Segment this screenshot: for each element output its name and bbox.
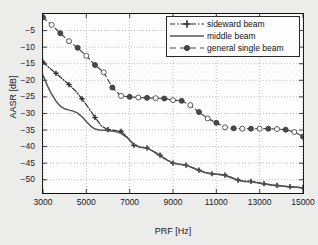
legend-box: sideward beam middle beam general single… xyxy=(166,16,300,57)
x-tick-label: 5000 xyxy=(66,198,106,207)
y-axis-label: AASR [dB] xyxy=(8,62,18,132)
series-marker xyxy=(275,127,280,132)
series-marker xyxy=(205,116,210,121)
y-tick-label: −5 xyxy=(9,26,35,35)
series-marker xyxy=(41,15,46,20)
x-axis-label: PRF [Hz] xyxy=(42,226,304,236)
series-marker xyxy=(153,96,158,101)
series-marker xyxy=(84,53,89,58)
x-tick-label: 13000 xyxy=(240,198,280,207)
series-marker xyxy=(231,126,236,131)
x-tick-label: 7000 xyxy=(110,198,150,207)
series-marker xyxy=(214,120,219,125)
x-tick-label: 9000 xyxy=(153,198,193,207)
legend-label-middle-beam: middle beam xyxy=(207,30,256,42)
legend-label-general-single-beam: general single beam xyxy=(207,42,284,54)
series-marker xyxy=(145,95,150,100)
y-tick-label: −50 xyxy=(9,175,35,184)
series-marker xyxy=(127,94,132,99)
series-marker xyxy=(119,93,124,98)
legend-item-general-single-beam: general single beam xyxy=(167,42,299,54)
series-marker xyxy=(292,130,297,135)
y-tick-label: −45 xyxy=(9,159,35,168)
series-marker xyxy=(136,95,141,100)
y-tick-label: −10 xyxy=(9,43,35,52)
series-marker xyxy=(58,31,63,36)
series-marker xyxy=(266,126,271,131)
series-marker xyxy=(101,70,106,75)
legend-item-middle-beam: middle beam xyxy=(167,30,299,42)
series-marker xyxy=(93,63,98,68)
series-marker xyxy=(249,126,254,131)
series-marker xyxy=(257,126,262,131)
series-marker xyxy=(49,22,54,27)
series-marker xyxy=(188,103,193,108)
figure-container: −5−10−15−20−25−30−35−40−45−50 3000500070… xyxy=(0,0,318,245)
y-tick-label: −40 xyxy=(9,142,35,151)
series-marker xyxy=(162,96,167,101)
series-marker xyxy=(75,45,80,50)
legend-sample-sideward-beam xyxy=(167,18,207,30)
legend-sample-middle-beam xyxy=(167,30,207,42)
series-marker xyxy=(240,126,245,131)
x-tick-label: 3000 xyxy=(23,198,63,207)
legend-label-sideward-beam: sideward beam xyxy=(207,18,265,30)
legend-sample-general-single-beam xyxy=(167,42,207,54)
series-marker xyxy=(223,125,228,130)
series-marker xyxy=(179,98,184,103)
series-marker xyxy=(197,110,202,115)
series-marker xyxy=(67,39,72,44)
x-tick-label: 11000 xyxy=(196,198,236,207)
legend-item-sideward-beam: sideward beam xyxy=(167,18,299,30)
series-marker xyxy=(110,85,115,90)
x-tick-label: 15000 xyxy=(283,198,318,207)
series-marker xyxy=(301,134,306,139)
series-marker xyxy=(283,127,288,132)
series-marker xyxy=(171,98,176,103)
